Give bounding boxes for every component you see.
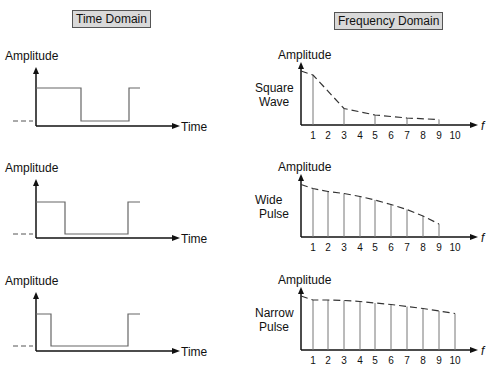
tick-label: 9 <box>436 242 442 253</box>
tick-label: 10 <box>449 355 461 366</box>
tick-label: 3 <box>341 355 347 366</box>
amplitude-label: Amplitude <box>278 48 332 62</box>
arrow-up-icon <box>33 67 39 74</box>
tick-label: 8 <box>420 130 426 141</box>
tick-label: 10 <box>449 130 461 141</box>
diagram-canvas: AmplitudeTimeAmplitudeSquareWavef1234567… <box>0 0 490 375</box>
arrow-up-icon <box>298 62 304 69</box>
tick-label: 1 <box>310 242 316 253</box>
tick-label: 4 <box>357 355 363 366</box>
arrow-right-icon <box>470 122 478 128</box>
arrow-right-icon <box>172 235 180 241</box>
arrow-up-icon <box>298 174 304 181</box>
tick-label: 3 <box>341 242 347 253</box>
pulse-waveform <box>36 88 140 121</box>
envelope-dashed <box>301 185 439 225</box>
tick-label: 1 <box>310 130 316 141</box>
amplitude-label: Amplitude <box>278 273 332 287</box>
frequency-label: f <box>481 231 486 245</box>
tick-label: 3 <box>341 130 347 141</box>
signal-label: Wave <box>259 95 290 109</box>
time-label: Time <box>181 345 208 359</box>
tick-label: 2 <box>325 242 331 253</box>
signal-label: Wide <box>255 193 283 207</box>
tick-label: 7 <box>404 355 410 366</box>
arrow-up-icon <box>33 292 39 299</box>
time-label: Time <box>181 120 208 134</box>
envelope-dashed <box>301 71 439 120</box>
tick-label: 5 <box>372 130 378 141</box>
arrow-up-icon <box>298 287 304 294</box>
tick-label: 1 <box>310 355 316 366</box>
arrow-up-icon <box>33 179 39 186</box>
arrow-right-icon <box>172 348 180 354</box>
signal-label: Pulse <box>259 207 289 221</box>
arrow-right-icon <box>172 123 180 129</box>
signal-label: Square <box>255 81 294 95</box>
tick-label: 5 <box>372 355 378 366</box>
tick-label: 9 <box>436 130 442 141</box>
tick-label: 4 <box>357 242 363 253</box>
pulse-waveform <box>36 202 140 234</box>
tick-label: 4 <box>357 130 363 141</box>
pulse-waveform <box>36 314 140 346</box>
amplitude-label: Amplitude <box>278 160 332 174</box>
tick-label: 6 <box>388 355 394 366</box>
tick-label: 10 <box>449 242 461 253</box>
time-label: Time <box>181 232 208 246</box>
tick-label: 6 <box>388 242 394 253</box>
tick-label: 7 <box>404 130 410 141</box>
amplitude-label: Amplitude <box>5 49 59 63</box>
signal-label: Narrow <box>255 306 294 320</box>
frequency-label: f <box>481 119 486 133</box>
tick-label: 2 <box>325 130 331 141</box>
tick-label: 6 <box>388 130 394 141</box>
amplitude-label: Amplitude <box>5 161 59 175</box>
diagram: Time Domain Frequency Domain AmplitudeTi… <box>0 0 490 375</box>
tick-label: 7 <box>404 242 410 253</box>
amplitude-label: Amplitude <box>5 274 59 288</box>
tick-label: 8 <box>420 242 426 253</box>
signal-label: Pulse <box>259 320 289 334</box>
arrow-right-icon <box>470 347 478 353</box>
tick-label: 9 <box>436 355 442 366</box>
arrow-right-icon <box>470 234 478 240</box>
tick-label: 2 <box>325 355 331 366</box>
envelope-dashed <box>301 296 455 314</box>
tick-label: 5 <box>372 242 378 253</box>
tick-label: 8 <box>420 355 426 366</box>
frequency-label: f <box>481 344 486 358</box>
